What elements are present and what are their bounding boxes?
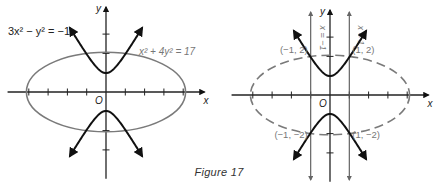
figure-caption: Figure 17 — [0, 166, 438, 178]
vertical-line-label: x = −1 — [318, 25, 328, 51]
intersection-label: (1, 2) — [352, 44, 374, 55]
right-graph: x = −1x = 1xyO(−1, 2)(1, 2)(−1, −2)(1, −… — [232, 6, 434, 182]
intersection-label: (−1, 2) — [280, 44, 308, 55]
y-axis-label: y — [319, 6, 326, 17]
y-axis-label: y — [95, 3, 102, 14]
figure-canvas: xyO3x² − y² = −1x² + 4y² = 17 x = −1x = … — [0, 0, 438, 183]
hyperbola-equation-label: 3x² − y² = −1 — [8, 25, 70, 37]
x-axis-label: x — [426, 98, 433, 109]
vertical-line-label: x = 1 — [356, 25, 366, 46]
intersection-label: (−1, −2) — [274, 129, 307, 140]
left-graph: xyO3x² − y² = −1x² + 4y² = 17 — [8, 3, 210, 179]
ellipse-equation-label: x² + 4y² = 17 — [138, 46, 196, 57]
origin-label: O — [319, 98, 327, 109]
intersection-label: (1, −2) — [352, 129, 380, 140]
x-axis-label: x — [202, 95, 209, 106]
origin-label: O — [95, 95, 103, 106]
